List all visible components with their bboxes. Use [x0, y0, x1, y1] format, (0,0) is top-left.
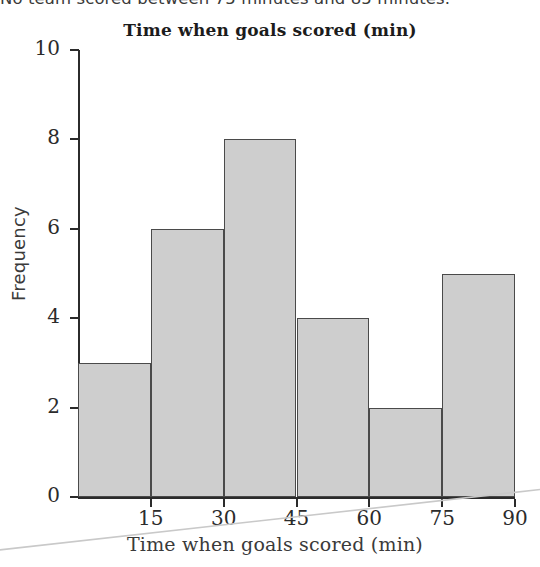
x-tick-label: 15 — [121, 506, 181, 530]
y-tick-mark — [70, 228, 79, 230]
y-axis-label: Frequency — [8, 184, 29, 324]
histogram-bar — [442, 274, 515, 498]
histogram-bar — [151, 229, 224, 497]
x-tick-label: 30 — [194, 506, 254, 530]
y-tick-label: 10 — [14, 36, 60, 60]
y-tick-mark — [70, 49, 79, 51]
y-tick-mark — [70, 138, 79, 140]
x-tick-label: 45 — [267, 506, 327, 530]
y-tick-label: 2 — [14, 394, 60, 418]
x-tick-label: 75 — [412, 506, 472, 530]
histogram-bar — [224, 139, 297, 497]
histogram-bar — [78, 363, 151, 497]
histogram-bar — [297, 318, 370, 497]
x-tick-label: 90 — [485, 506, 540, 530]
histogram-bar — [369, 408, 442, 497]
y-tick-mark — [70, 317, 79, 319]
y-tick-label: 8 — [14, 125, 60, 149]
histogram-plot: 0246810 153045607590 Frequency Time when… — [0, 0, 540, 567]
x-axis-label: Time when goals scored (min) — [40, 533, 510, 555]
x-tick-label: 60 — [339, 506, 399, 530]
y-tick-label: 0 — [14, 483, 60, 507]
